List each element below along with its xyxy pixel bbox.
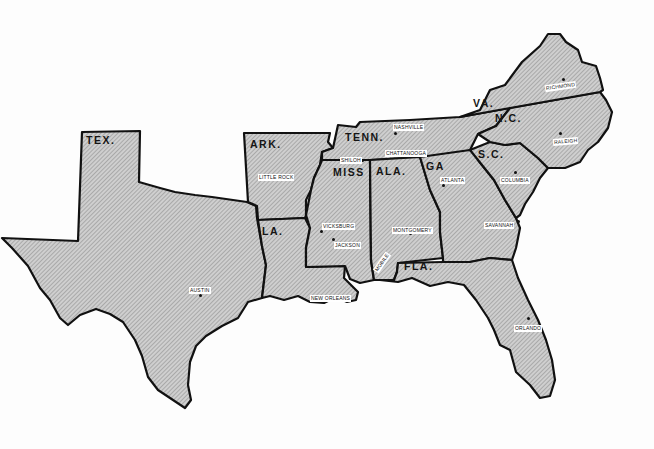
city-label-savannah: SAVANNAH [484,222,514,229]
city-label-nashville: NASHVILLE [393,124,424,131]
state-label-louisiana: LA. [262,225,283,237]
city-dot-columbia [514,171,517,174]
city-dot-savannah [517,220,520,223]
city-dot-raleigh [559,132,562,135]
city-dot-richmond [562,78,565,81]
city-label-chattanooga: CHATTANOOGA [385,150,427,157]
city-dot-jackson [332,238,335,241]
city-label-new-orleans: NEW ORLEANS [310,295,351,302]
state-label-south-carolina: S.C. [478,148,504,160]
state-texas [2,131,266,408]
city-dot-orlando [527,317,530,320]
state-label-tennessee: TENN. [345,131,384,143]
city-label-montgomery: MONTGOMERY [392,227,433,234]
city-dot-nashville [394,132,397,135]
state-label-virginia: VA. [473,97,494,109]
state-label-alabama: ALA. [376,165,407,177]
state-label-north-carolina: N.C. [495,112,522,124]
city-label-orlando: ORLANDO [514,325,542,332]
state-label-texas: TEX. [86,134,115,146]
state-mississippi [306,160,374,283]
state-label-arkansas: ARK. [250,138,282,150]
city-label-jackson: JACKSON [334,242,361,249]
city-label-little-rock: LITTLE ROCK [258,174,294,181]
city-dot-atlanta [442,184,445,187]
city-label-vicksburg: VICKSBURG [322,223,355,230]
state-label-florida: FLA. [404,260,433,272]
state-label-georgia: GA [426,160,445,172]
city-dot-vicksburg [320,230,323,233]
confederate-states-map: TEX. ARK. LA. MISS TENN. ALA. GA S.C. N.… [0,0,654,449]
city-label-austin: AUSTIN [189,287,211,294]
state-label-mississippi: MISS [333,166,365,178]
city-dot-austin [199,294,202,297]
city-label-atlanta: ATLANTA [440,177,465,184]
city-label-columbia: COLUMBIA [500,177,530,184]
city-label-shiloh: SHILOH [340,157,362,164]
